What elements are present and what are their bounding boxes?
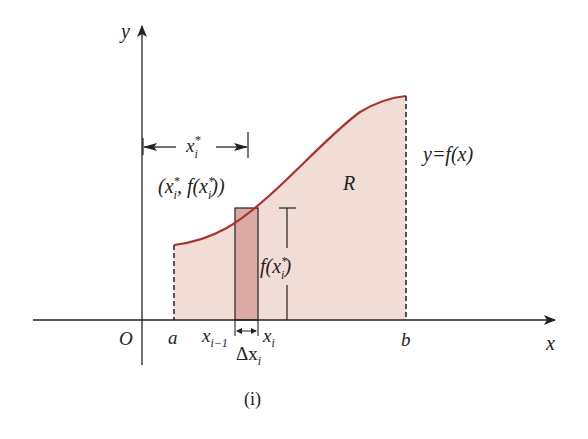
y-axis-label: y [119,20,130,43]
label-region-r: R [342,172,355,194]
label-curve: y=f(x) [421,143,473,166]
label-xstar: x*i [185,133,200,161]
riemann-sum-diagram: y x O a b xi−1 xi Δxi x*i (x*i, f(x*i)) … [0,0,588,439]
label-sample-point: (x*i, f(x*i)) [158,174,225,202]
figure-caption: (i) [244,389,261,410]
label-delta-x: Δxi [236,343,261,368]
label-b: b [401,329,411,350]
label-x-i: xi [262,325,275,350]
origin-label: O [119,328,133,349]
x-axis-label: x [545,332,555,354]
label-a: a [168,327,178,348]
sample-rectangle [235,208,258,320]
label-x-prev: xi−1 [201,325,228,350]
